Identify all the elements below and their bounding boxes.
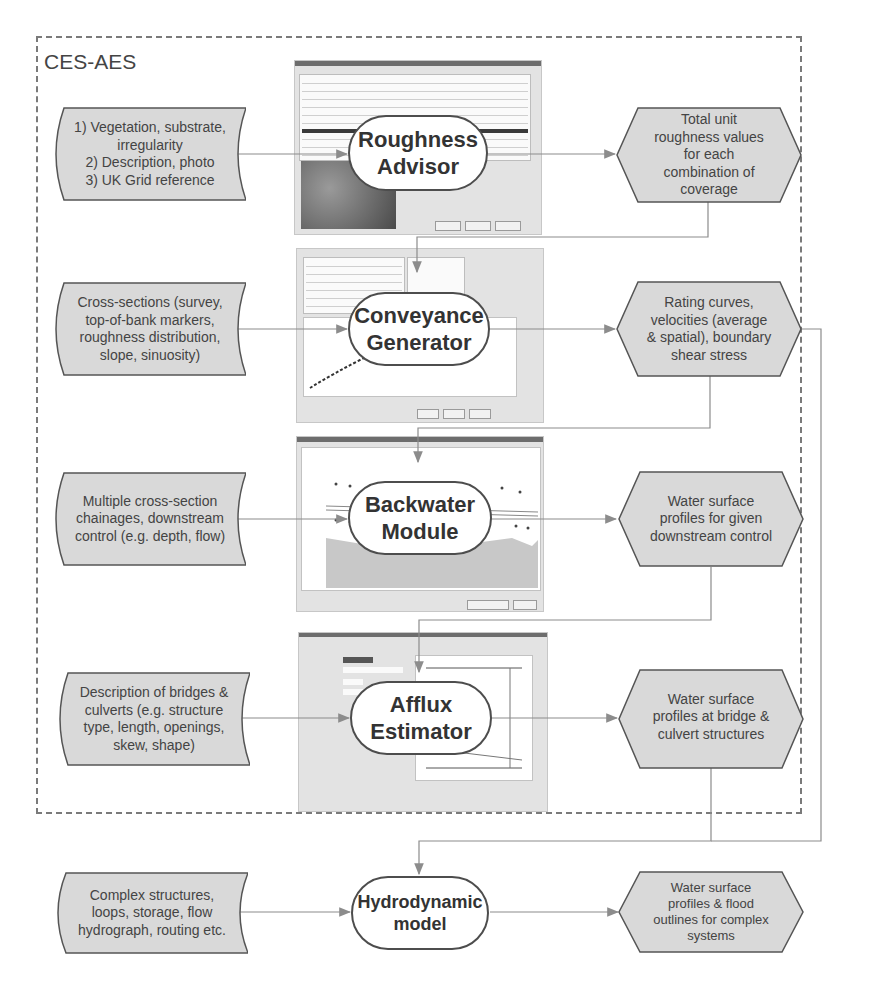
- output-roughness-values: Total unit roughness values for each com…: [616, 107, 802, 203]
- output-rating-curves: Rating curves, velocities (average & spa…: [616, 281, 802, 377]
- input-vegetation-data: 1) Vegetation, substrate, irregularity 2…: [54, 107, 246, 201]
- input-complex-structures: Complex structures, loops, storage, flow…: [56, 872, 248, 954]
- hydrodynamic-model-process: Hydrodynamic model: [351, 876, 489, 950]
- output-bridge-culvert-profiles: Water surface profiles at bridge & culve…: [618, 669, 804, 765]
- input-chainages-control: Multiple cross-section chainages, downst…: [54, 472, 246, 566]
- roughness-advisor-process: Roughness Advisor: [348, 115, 488, 191]
- input-cross-sections: Cross-sections (survey, top-of-bank mark…: [54, 282, 246, 376]
- output-flood-outlines: Water surface profiles & flood outlines …: [618, 871, 804, 953]
- backwater-module-process: Backwater Module: [348, 481, 492, 555]
- conveyance-generator-process: Conveyance Generator: [348, 292, 490, 366]
- output-water-surface-profiles: Water surface profiles for given downstr…: [618, 471, 804, 567]
- frame-title: CES-AES: [44, 50, 136, 74]
- input-bridges-culverts: Description of bridges & culverts (e.g. …: [58, 672, 250, 766]
- afflux-estimator-process: Afflux Estimator: [350, 681, 492, 755]
